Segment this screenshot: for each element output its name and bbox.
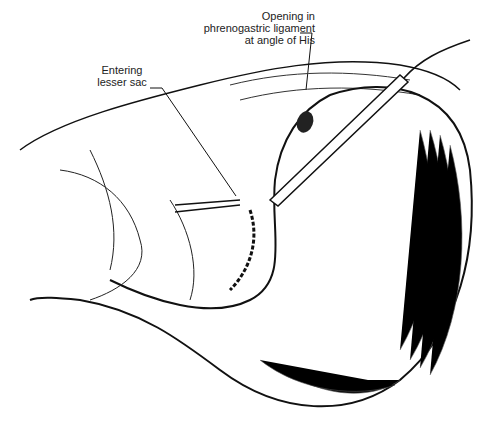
label-opening-phrenogastric: Opening in phrenogastric ligament at ang… — [190, 10, 315, 46]
leader-line-lesser-sac — [150, 88, 236, 196]
label-line: phrenogastric ligament — [190, 22, 315, 34]
omentum-folds — [60, 150, 194, 300]
label-line: lesser sac — [92, 76, 152, 88]
label-entering-lesser-sac: Entering lesser sac — [92, 64, 152, 88]
lesser-curvature-vessels — [230, 210, 254, 290]
cautery-cord — [404, 40, 470, 78]
opening-angle-of-his — [294, 109, 317, 135]
label-line: Opening in — [190, 10, 315, 22]
label-line: Entering — [92, 64, 152, 76]
liver-outline — [20, 62, 460, 150]
label-line: at angle of His — [190, 34, 315, 46]
forceps — [175, 200, 240, 212]
stomach-hatching — [260, 130, 462, 393]
cautery-instrument — [270, 75, 408, 206]
anatomy-illustration — [0, 0, 482, 423]
stomach-outline — [30, 87, 472, 406]
